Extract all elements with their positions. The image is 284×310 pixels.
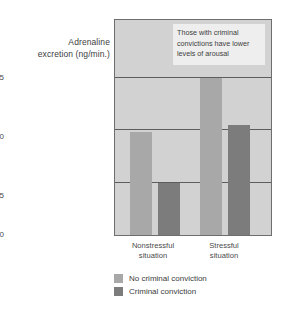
legend-swatch-icon [114, 274, 123, 283]
annotation-line-1: Those with criminal [177, 28, 261, 39]
x-category-line-2: situation [184, 251, 264, 261]
bar-nonstressful-no-criminal-conviction [130, 132, 152, 235]
legend-item-criminal-conviction: Criminal conviction [114, 285, 207, 298]
x-category-line-1: Nonstressful [113, 241, 193, 251]
x-category-stressful: Stressful situation [184, 241, 264, 261]
bar-fill [130, 132, 152, 235]
bar-nonstressful-criminal-conviction [158, 183, 180, 235]
chart-legend: No criminal conviction Criminal convicti… [114, 272, 207, 298]
y-axis-title-line-2: excretion (ng/min.) [10, 48, 110, 60]
x-category-nonstressful: Nonstressful situation [113, 241, 193, 261]
legend-label: No criminal conviction [129, 274, 207, 283]
legend-swatch-icon [114, 287, 123, 296]
bar-fill [200, 78, 222, 235]
annotation-line-3: levels of arousal [177, 49, 261, 60]
x-category-line-2: situation [113, 251, 193, 261]
y-axis-title-line-1: Adrenaline [10, 36, 110, 48]
y-axis-title: Adrenaline excretion (ng/min.) [10, 36, 110, 60]
bar-fill [158, 183, 180, 235]
legend-label: Criminal conviction [129, 287, 196, 296]
annotation-line-2: convictions have lower [177, 39, 261, 50]
plot-area: Those with criminal convictions have low… [114, 19, 272, 236]
chart-annotation: Those with criminal convictions have low… [173, 24, 265, 65]
legend-item-no-criminal-conviction: No criminal conviction [114, 272, 207, 285]
bar-stressful-criminal-conviction [228, 125, 250, 235]
x-category-line-1: Stressful [184, 241, 264, 251]
bar-stressful-no-criminal-conviction [200, 78, 222, 235]
gridline-15 [115, 77, 271, 78]
bar-fill [228, 125, 250, 235]
